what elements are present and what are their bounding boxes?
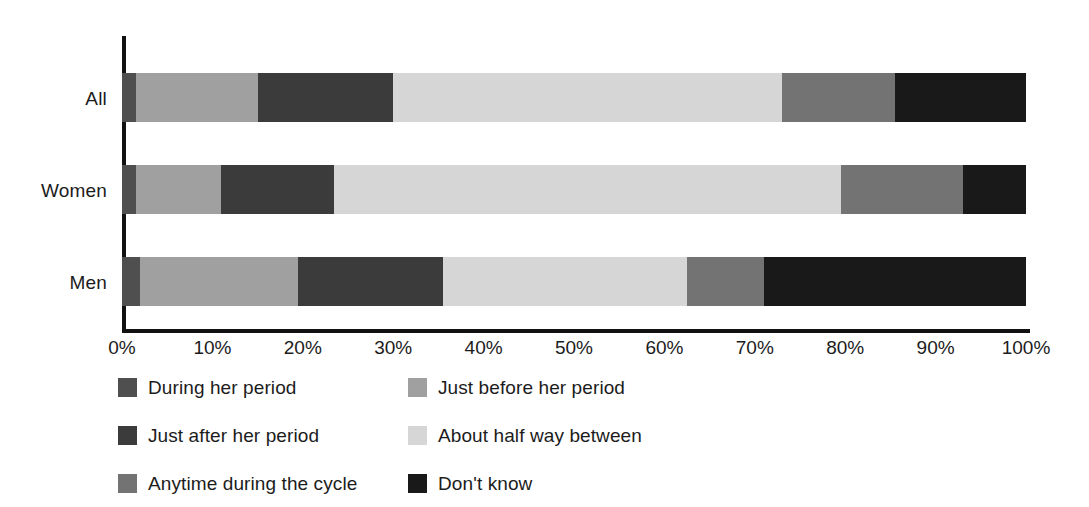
bar-row-women bbox=[122, 165, 1026, 214]
bar-segment bbox=[393, 73, 782, 122]
bar-segment bbox=[136, 73, 258, 122]
y-axis-label-women: Women bbox=[0, 180, 107, 202]
stacked-bar-chart: All Women Men 0%10%20%30%40%50%60%70%80%… bbox=[0, 0, 1089, 507]
y-axis-label-men: Men bbox=[0, 272, 107, 294]
legend-swatch-icon bbox=[118, 426, 137, 445]
legend-swatch-icon bbox=[118, 378, 137, 397]
bar-row-all bbox=[122, 73, 1026, 122]
y-axis-label-all: All bbox=[0, 88, 107, 110]
legend-label: Anytime during the cycle bbox=[148, 474, 357, 493]
bar-segment bbox=[687, 257, 764, 306]
legend-swatch-icon bbox=[408, 378, 427, 397]
bar-segment bbox=[334, 165, 840, 214]
legend-item[interactable]: Don't know bbox=[408, 474, 532, 493]
bar-segment bbox=[764, 257, 1026, 306]
bar-segment bbox=[122, 257, 140, 306]
legend-item[interactable]: About half way between bbox=[408, 426, 642, 445]
bar-segment bbox=[841, 165, 963, 214]
x-axis-tick-90: 90% bbox=[917, 337, 955, 359]
x-axis-tick-0: 0% bbox=[108, 337, 135, 359]
x-axis-tick-30: 30% bbox=[374, 337, 412, 359]
legend-swatch-icon bbox=[408, 426, 427, 445]
legend-swatch-icon bbox=[408, 474, 427, 493]
legend-item[interactable]: Just after her period bbox=[118, 426, 319, 445]
legend-label: Don't know bbox=[438, 474, 532, 493]
bar-row-men bbox=[122, 257, 1026, 306]
legend-item[interactable]: During her period bbox=[118, 378, 297, 397]
x-axis-tick-60: 60% bbox=[645, 337, 683, 359]
x-axis-tick-10: 10% bbox=[193, 337, 231, 359]
bar-segment bbox=[140, 257, 298, 306]
bar-segment bbox=[122, 165, 136, 214]
x-axis-tick-70: 70% bbox=[736, 337, 774, 359]
x-axis-tick-80: 80% bbox=[826, 337, 864, 359]
legend-label: About half way between bbox=[438, 426, 642, 445]
plot-area bbox=[122, 36, 1026, 329]
x-axis-line bbox=[122, 329, 1030, 333]
bar-segment bbox=[122, 73, 136, 122]
legend-label: Just before her period bbox=[438, 378, 625, 397]
bar-segment bbox=[895, 73, 1026, 122]
legend-label: Just after her period bbox=[148, 426, 319, 445]
bar-segment bbox=[221, 165, 334, 214]
legend-label: During her period bbox=[148, 378, 297, 397]
bar-segment bbox=[136, 165, 222, 214]
bar-segment bbox=[782, 73, 895, 122]
legend-item[interactable]: Just before her period bbox=[408, 378, 625, 397]
x-axis-tick-50: 50% bbox=[555, 337, 593, 359]
legend-swatch-icon bbox=[118, 474, 137, 493]
bar-segment bbox=[258, 73, 394, 122]
bar-segment bbox=[963, 165, 1026, 214]
legend-item[interactable]: Anytime during the cycle bbox=[118, 474, 357, 493]
x-axis-tick-100: 100% bbox=[1002, 337, 1051, 359]
x-axis-tick-20: 20% bbox=[284, 337, 322, 359]
bar-segment bbox=[443, 257, 687, 306]
x-axis-tick-40: 40% bbox=[465, 337, 503, 359]
bar-segment bbox=[298, 257, 443, 306]
